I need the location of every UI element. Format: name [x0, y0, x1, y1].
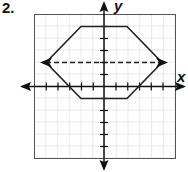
- coordinate-grid: [0, 0, 188, 172]
